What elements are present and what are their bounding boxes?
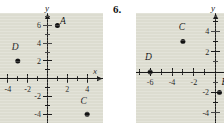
data-point-label-b: B [221,77,224,87]
coordinate-plane-right-svg: -6-4-2-4-224CDB [136,13,224,123]
data-point-label-a: A [59,16,66,26]
data-point-label-d: D [144,52,152,62]
coordinate-plane-right: -6-4-2-4-224CDB [136,13,224,123]
x-axis-arrowhead [97,76,103,81]
data-point-c [180,39,185,44]
x-axis-tick-label: -2 [24,85,31,94]
x-axis-tick-label: -4 [169,78,176,87]
x-axis-tick-label: 4 [85,85,89,94]
y-axis-tick-label: 2 [37,57,41,66]
data-point-label-d: D [11,42,19,52]
y-axis-tick-label: -4 [202,109,209,118]
y-axis-tick-label: -2 [34,92,41,101]
y-axis-tick-label: -2 [202,88,209,97]
data-point-d [148,70,153,75]
y-axis-tick-label: 6 [37,21,41,30]
data-point-label-c: C [179,22,186,32]
y-axis-tick-label: 4 [205,27,209,36]
problem-number-6: 6. [113,3,121,15]
x-axis-tick-label: -4 [5,85,12,94]
graph-figure-pair: -4-224-4-2246xACD 6. -6-4-2-4-224CDB y y [0,0,224,123]
y-axis-tick-label: 2 [205,48,209,57]
y-axis-arrowhead [213,14,218,20]
y-axis-tick-label: 4 [37,39,41,48]
y-axis-label-left: y [44,3,49,13]
x-axis-label: x [92,66,97,76]
y-axis-tick-label: -4 [34,110,41,119]
y-axis-label-right: y [210,3,215,13]
coordinate-plane-left-svg: -4-224-4-2246xACD [0,13,103,123]
data-point-label-c: C [81,96,88,106]
x-axis-tick-label: 2 [65,85,69,94]
data-point-d [15,58,20,63]
coordinate-plane-left: -4-224-4-2246xACD [0,13,103,123]
data-point-c [85,112,90,117]
x-axis-tick-label: -2 [190,78,197,87]
x-axis-tick-label: -6 [147,78,154,87]
data-point-b [217,90,222,95]
